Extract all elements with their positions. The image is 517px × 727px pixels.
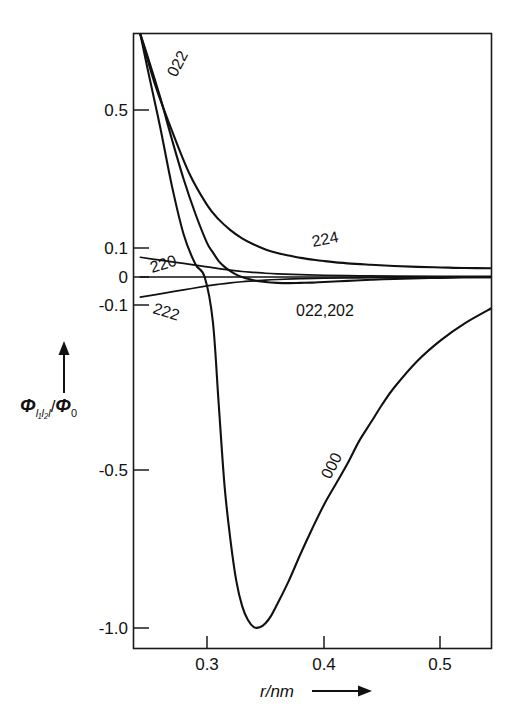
y-tick-label-3: -0.1 [99, 296, 128, 315]
curve-label-022-202: 022,202 [296, 302, 354, 319]
y-tick-label-1: 0.1 [104, 239, 128, 258]
phi0-subscript: 0 [71, 407, 77, 419]
phi-symbol: Φ [20, 395, 36, 416]
x-tick-label-2: 0.5 [428, 655, 452, 674]
x-axis-title-text: r/nm [260, 682, 294, 701]
phi0-symbol: Φ [55, 395, 71, 416]
y-tick-label-5: -1.0 [99, 619, 128, 638]
y-tick-label-0: 0.5 [104, 101, 128, 120]
x-tick-label-1: 0.4 [312, 655, 336, 674]
y-tick-label-2: 0 [119, 268, 128, 287]
figure-background [0, 0, 517, 727]
x-tick-label-0: 0.3 [195, 655, 219, 674]
phi-subscript: l₁l₂l [36, 407, 52, 419]
figure-root: 022224220222022,202000 0.30.40.5 0.50.10… [0, 0, 517, 727]
y-tick-label-4: -0.5 [99, 461, 128, 480]
